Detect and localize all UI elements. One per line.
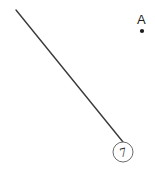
diagram-svg: 7 <box>0 0 155 172</box>
leader-line <box>16 10 123 142</box>
point-marker-a <box>140 29 144 33</box>
diagram-canvas: 7 A <box>0 0 155 172</box>
point-label-a: A <box>137 13 146 26</box>
callout-marker[interactable]: 7 <box>113 142 133 162</box>
